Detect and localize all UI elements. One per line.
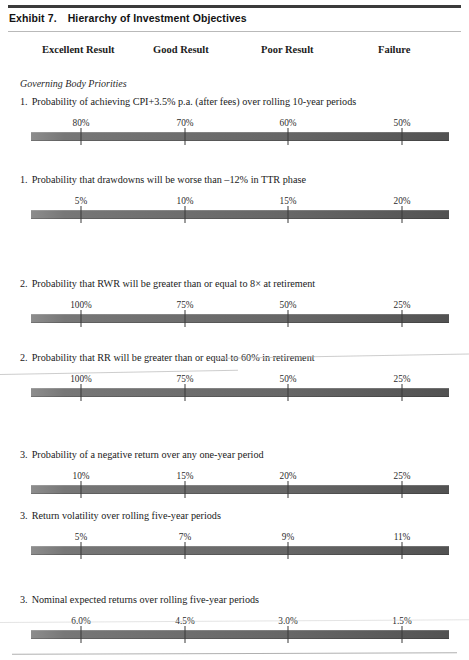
scale-tick-mark xyxy=(185,206,186,223)
scale-tick-mark xyxy=(81,384,82,401)
objective-index: 3. xyxy=(20,449,28,460)
scale-tick-label: 20% xyxy=(393,196,410,206)
scale-tick-label: 50% xyxy=(279,300,296,310)
scale-tick-label: 15% xyxy=(279,196,296,206)
scale-tick-mark xyxy=(185,384,186,401)
title-underline-rule xyxy=(8,31,461,32)
objective-label: 2.Probability that RWR will be greater t… xyxy=(20,278,315,289)
scale-tick-mark xyxy=(402,542,403,559)
scale-tick-mark xyxy=(185,542,186,559)
column-header-2: Good Result xyxy=(153,44,209,55)
objective-text: Probability of a negative return over an… xyxy=(32,449,264,460)
scale-tick-mark xyxy=(185,310,186,327)
scale-tick-label: 75% xyxy=(176,300,193,310)
scale-tick-mark xyxy=(402,481,403,498)
objective-text: Probability that RWR will be greater tha… xyxy=(32,278,316,289)
scale-tick-mark xyxy=(185,626,186,643)
scale-tick-label: 25% xyxy=(393,374,410,384)
scale-tick-mark xyxy=(402,310,403,327)
objective-text: Return volatility over rolling five-year… xyxy=(32,510,221,521)
scale-tick-label: 75% xyxy=(176,374,193,384)
scale-tick-mark xyxy=(81,626,82,643)
gradient-scale-bar xyxy=(31,546,449,555)
objective-index: 1. xyxy=(20,174,28,185)
scale-tick-mark xyxy=(402,206,403,223)
gradient-scale-bar xyxy=(31,314,449,323)
scale-tick-label: 20% xyxy=(279,471,296,481)
gradient-scale-bar xyxy=(31,630,449,639)
scale-tick-label: 1.5% xyxy=(392,616,411,626)
column-header-row: Excellent ResultGood ResultPoor ResultFa… xyxy=(0,44,469,60)
objective-label: 3.Nominal expected returns over rolling … xyxy=(20,594,259,605)
objective-index: 2. xyxy=(20,352,28,363)
scale-tick-mark xyxy=(402,384,403,401)
scale-tick-mark xyxy=(288,384,289,401)
objective-label: 3.Probability of a negative return over … xyxy=(20,449,264,460)
scale-tick-label: 25% xyxy=(393,300,410,310)
objective-index: 1. xyxy=(20,96,28,107)
scale-tick-mark xyxy=(81,542,82,559)
section-heading: Governing Body Priorities xyxy=(20,78,127,89)
scale-tick-mark xyxy=(402,626,403,643)
objective-text: Nominal expected returns over rolling fi… xyxy=(32,594,259,605)
scale-tick-label: 10% xyxy=(176,196,193,206)
scale-tick-label: 50% xyxy=(279,374,296,384)
objective-label: 3.Return volatility over rolling five-ye… xyxy=(20,510,221,521)
objective-index: 2. xyxy=(20,278,28,289)
scale-tick-label: 7% xyxy=(179,532,191,542)
scale-tick-label: 5% xyxy=(75,196,87,206)
scale-tick-label: 10% xyxy=(72,471,89,481)
top-horizontal-rule xyxy=(8,5,461,8)
gradient-scale-bar xyxy=(31,388,449,397)
scale-tick-label: 80% xyxy=(72,118,89,128)
scale-tick-mark xyxy=(81,481,82,498)
objective-label: 1.Probability that drawdowns will be wor… xyxy=(20,174,306,185)
scale-tick-mark xyxy=(81,310,82,327)
scale-tick-label: 70% xyxy=(176,118,193,128)
scale-tick-mark xyxy=(81,128,82,145)
scale-tick-mark xyxy=(288,626,289,643)
column-header-1: Excellent Result xyxy=(42,44,115,55)
scale-tick-label: 9% xyxy=(282,532,294,542)
exhibit-number: Exhibit 7. xyxy=(9,12,57,24)
objective-scale: 10%15%20%25% xyxy=(0,471,469,502)
gradient-scale-bar xyxy=(31,485,449,494)
bottom-horizontal-rule xyxy=(12,652,457,654)
scale-tick-mark xyxy=(185,128,186,145)
scale-tick-mark xyxy=(81,206,82,223)
column-header-3: Poor Result xyxy=(261,44,314,55)
objective-scale: 80%70%60%50% xyxy=(0,118,469,149)
objective-text: Probability of achieving CPI+3.5% p.a. (… xyxy=(32,96,357,107)
objective-index: 3. xyxy=(20,510,28,521)
column-header-4: Failure xyxy=(378,44,410,55)
scale-tick-label: 50% xyxy=(393,118,410,128)
objective-index: 3. xyxy=(20,594,28,605)
scale-tick-mark xyxy=(185,481,186,498)
scale-tick-mark xyxy=(402,128,403,145)
scale-tick-mark xyxy=(288,310,289,327)
objective-scale: 100%75%50%25% xyxy=(0,374,469,405)
scale-tick-label: 5% xyxy=(75,532,87,542)
gradient-scale-bar xyxy=(31,210,449,219)
exhibit-title-text: Hierarchy of Investment Objectives xyxy=(68,12,247,24)
scale-tick-mark xyxy=(288,481,289,498)
scale-tick-mark xyxy=(288,542,289,559)
scale-tick-mark xyxy=(288,206,289,223)
scale-tick-label: 25% xyxy=(393,471,410,481)
scale-tick-label: 11% xyxy=(394,532,411,542)
scale-tick-label: 100% xyxy=(70,374,92,384)
scale-tick-mark xyxy=(288,128,289,145)
objective-scale: 5%7%9%11% xyxy=(0,532,469,563)
page-title: Exhibit 7.Hierarchy of Investment Object… xyxy=(9,12,247,24)
objective-scale: 100%75%50%25% xyxy=(0,300,469,331)
objective-text: Probability that drawdowns will be worse… xyxy=(32,174,306,185)
scale-tick-label: 60% xyxy=(279,118,296,128)
objective-label: 1.Probability of achieving CPI+3.5% p.a.… xyxy=(20,96,356,107)
scale-tick-label: 15% xyxy=(176,471,193,481)
objective-scale: 5%10%15%20% xyxy=(0,196,469,227)
exhibit-page: Exhibit 7.Hierarchy of Investment Object… xyxy=(0,0,469,660)
scale-tick-label: 100% xyxy=(70,300,92,310)
gradient-scale-bar xyxy=(31,132,449,141)
